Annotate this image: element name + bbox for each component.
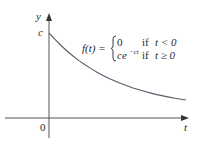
case2-exponent: −ct — [129, 48, 140, 56]
case2-condition: t ≥ 0 — [155, 49, 176, 61]
y-intercept-label: c — [38, 26, 43, 38]
origin-label: 0 — [40, 121, 46, 133]
brace-icon — [111, 36, 116, 61]
case1-if: if — [142, 36, 149, 48]
case1-value: 0 — [117, 36, 123, 48]
case1-condition: t < 0 — [155, 36, 177, 48]
formula-lhs: f(t) = — [82, 42, 106, 55]
y-axis-arrow-icon — [46, 13, 52, 21]
exponential-decay-graph: y c 0 t f(t) = 0 if t < 0 ce −ct if t ≥ … — [0, 0, 201, 147]
y-axis-label: y — [35, 10, 41, 22]
case2-if: if — [142, 49, 149, 61]
x-axis-label: t — [184, 121, 188, 133]
case2-base: ce — [117, 49, 127, 61]
piecewise-formula: f(t) = 0 if t < 0 ce −ct if t ≥ 0 — [82, 36, 177, 61]
